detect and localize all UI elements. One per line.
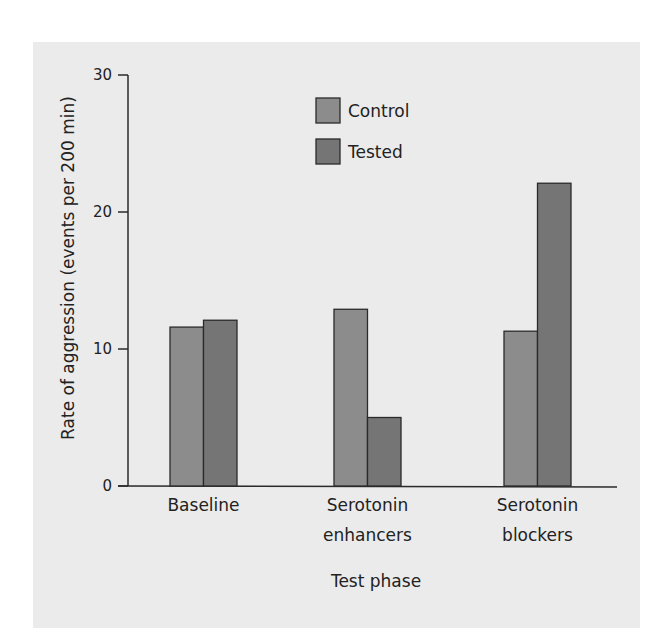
legend-swatch-control — [316, 98, 340, 123]
y-axis-title: Rate of aggression (events per 200 min) — [58, 96, 78, 440]
legend-swatch-tested — [316, 139, 340, 164]
bars — [170, 183, 571, 486]
x-category-label: blockers — [502, 525, 573, 545]
bar-control-3 — [504, 331, 538, 486]
legend-label-control: Control — [348, 101, 409, 121]
y-tick-label: 30 — [93, 66, 112, 84]
x-category-label: enhancers — [323, 525, 412, 545]
bar-control-2 — [334, 309, 368, 486]
labels: BaselineSerotoninenhancersSerotoninblock… — [58, 96, 578, 591]
x-axis-title: Test phase — [330, 571, 421, 591]
bar-chart: 0102030 ControlTested BaselineSerotonine… — [0, 0, 663, 642]
y-tick-label: 10 — [93, 340, 112, 358]
bar-tested-2 — [368, 418, 402, 487]
x-category-label: Serotonin — [327, 495, 409, 515]
y-tick-label: 0 — [102, 477, 112, 495]
x-category-label: Serotonin — [497, 495, 579, 515]
legend: ControlTested — [316, 98, 409, 164]
legend-label-tested: Tested — [347, 142, 403, 162]
x-category-label: Baseline — [167, 495, 239, 515]
y-tick-label: 20 — [93, 203, 112, 221]
bar-control-1 — [170, 327, 204, 486]
bar-tested-1 — [204, 320, 238, 486]
bar-tested-3 — [538, 183, 572, 486]
